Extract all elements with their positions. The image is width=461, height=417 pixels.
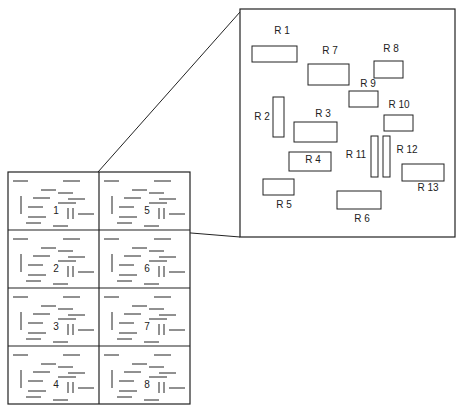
- cell-number: 5: [144, 205, 150, 216]
- diagram-canvas: R 1R 7R 8R 9R 2R 3R 10R 11R 12R 4R 13R 5…: [0, 0, 461, 417]
- region-r4: R 4: [289, 152, 331, 171]
- region-box: [402, 164, 444, 181]
- region-box: [337, 191, 381, 209]
- region-box: [308, 64, 349, 85]
- region-label: R 7: [322, 45, 338, 56]
- region-box: [263, 179, 294, 195]
- board-grid: 15263748: [8, 172, 190, 404]
- region-label: R 9: [360, 78, 376, 89]
- region-box: [371, 136, 378, 177]
- cell-number: 2: [53, 263, 59, 274]
- region-label: R 13: [417, 182, 439, 193]
- region-label: R 2: [254, 111, 270, 122]
- cell-number: 8: [144, 379, 150, 390]
- region-label: R 11: [346, 149, 367, 160]
- region-r10: R 10: [384, 99, 413, 131]
- region-label: R 1: [274, 25, 290, 36]
- cell-number: 1: [53, 205, 59, 216]
- region-label: R 12: [396, 144, 418, 155]
- region-label: R 4: [305, 154, 321, 165]
- region-box: [273, 97, 284, 137]
- connector-line-top: [98, 12, 240, 172]
- cell-number: 7: [144, 321, 150, 332]
- region-box: [349, 91, 378, 107]
- cell-number: 4: [53, 379, 59, 390]
- region-label: R 5: [276, 199, 292, 210]
- region-label: R 8: [383, 43, 399, 54]
- region-label: R 10: [388, 99, 410, 110]
- region-label: R 6: [354, 213, 370, 224]
- region-box: [374, 61, 403, 78]
- region-box: [252, 46, 297, 62]
- region-box: [294, 122, 337, 142]
- region-box: [384, 115, 413, 131]
- cell-number: 3: [53, 321, 59, 332]
- region-label: R 3: [315, 108, 331, 119]
- cell-number: 6: [144, 263, 150, 274]
- region-box: [383, 136, 390, 177]
